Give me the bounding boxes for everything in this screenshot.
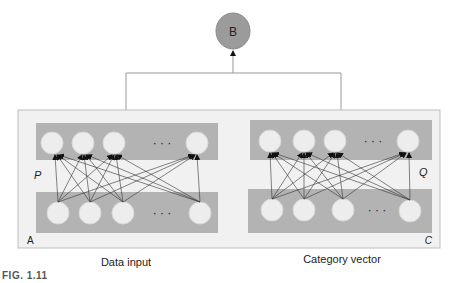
left-hidden-node-3 <box>103 132 125 154</box>
corner-label-c: C <box>425 235 433 246</box>
right-input-node-3 <box>332 199 354 221</box>
corner-label-a: A <box>27 235 34 246</box>
left-input-ellipsis: · · · <box>153 206 172 220</box>
output-node-label: B <box>229 25 237 39</box>
left-hidden-ellipsis: · · · <box>153 136 172 150</box>
left-input-node-2 <box>79 202 101 224</box>
figure-label: FIG. 1.11 <box>2 270 48 281</box>
right-input-node-n <box>399 200 421 222</box>
right-hidden-label: Q <box>419 166 428 178</box>
right-input-ellipsis: · · · <box>368 203 387 217</box>
right-hidden-node-1 <box>259 130 281 152</box>
right-hidden-node-2 <box>293 130 315 152</box>
right-hidden-node-n <box>397 130 419 152</box>
left-caption: Data input <box>101 256 151 268</box>
left-hidden-node-1 <box>41 132 63 154</box>
left-input-node-n <box>189 202 211 224</box>
right-hidden-node-3 <box>324 130 346 152</box>
left-input-node-3 <box>112 202 134 224</box>
right-input-node-1 <box>261 199 283 221</box>
merge-connector <box>126 51 341 110</box>
left-input-node-1 <box>47 202 69 224</box>
left-hidden-node-2 <box>72 132 94 154</box>
right-caption: Category vector <box>303 253 381 265</box>
output-node-b: B <box>216 13 250 49</box>
diagram-canvas: B · · · · · · <box>0 0 458 283</box>
left-hidden-node-n <box>186 132 208 154</box>
left-hidden-label: P <box>34 169 42 181</box>
right-input-node-2 <box>293 199 315 221</box>
right-hidden-ellipsis: · · · <box>364 134 383 148</box>
